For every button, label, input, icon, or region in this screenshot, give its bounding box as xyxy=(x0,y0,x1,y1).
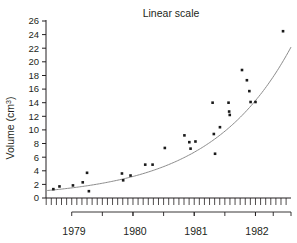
y-tick-label: 26 xyxy=(28,15,39,26)
data-point-marker xyxy=(164,147,167,150)
year-label-1981: 1981 xyxy=(184,225,208,237)
data-point-marker xyxy=(214,152,217,155)
data-point-marker xyxy=(72,184,75,187)
chart-title: Linear scale xyxy=(143,7,200,19)
data-point-marker xyxy=(81,181,84,184)
data-point-marker xyxy=(183,134,186,137)
year-label-1979: 1979 xyxy=(62,225,86,237)
data-point-marker xyxy=(254,101,257,104)
data-point-marker xyxy=(144,163,147,166)
data-point-marker xyxy=(227,101,230,104)
y-tick-label: 2 xyxy=(34,179,39,190)
data-point-marker xyxy=(241,69,244,72)
y-axis-title: Volume (cm3) xyxy=(4,97,16,160)
linear-scale-scatter-chart: Linear scale Volume (cm3) 0 2 4 6 8 10 1… xyxy=(0,0,297,243)
data-point-marker xyxy=(122,179,125,182)
data-point-marker xyxy=(213,133,216,136)
y-tick-label: 10 xyxy=(28,124,39,135)
y-tick-label: 22 xyxy=(28,43,39,54)
data-point-marker xyxy=(86,172,89,175)
data-point-marker xyxy=(151,163,154,166)
data-point-marker xyxy=(121,172,124,175)
y-tick-label: 8 xyxy=(34,138,39,149)
data-point-marker xyxy=(219,126,222,129)
data-point-marker xyxy=(58,185,61,188)
year-label-1982: 1982 xyxy=(245,225,269,237)
y-tick-label: 14 xyxy=(28,97,39,108)
data-point-marker xyxy=(52,188,55,191)
data-point-marker xyxy=(248,90,251,93)
y-tick-label: 12 xyxy=(28,111,39,122)
data-point-marker xyxy=(282,30,285,33)
y-tick-label: 18 xyxy=(28,70,39,81)
year-label-1980: 1980 xyxy=(123,225,147,237)
data-point-marker xyxy=(228,114,231,117)
y-tick-label: 0 xyxy=(34,192,39,203)
chart-container: Linear scale Volume (cm3) 0 2 4 6 8 10 1… xyxy=(0,0,297,243)
data-point-marker xyxy=(249,101,252,104)
y-tick-label: 4 xyxy=(34,165,39,176)
data-point-marker xyxy=(88,190,91,193)
data-point-marker xyxy=(189,147,192,150)
y-tick-label: 6 xyxy=(34,152,39,163)
data-point-marker xyxy=(194,140,197,143)
chart-background xyxy=(0,0,297,243)
data-point-marker xyxy=(246,79,249,82)
y-tick-label: 20 xyxy=(28,56,39,67)
data-point-marker xyxy=(129,174,132,177)
svg-text:Volume (cm3): Volume (cm3) xyxy=(4,97,16,160)
y-axis-title-tail: ) xyxy=(4,97,16,101)
data-point-marker xyxy=(211,101,214,104)
data-point-marker xyxy=(188,141,191,144)
y-axis-title-base: Volume (cm xyxy=(4,104,16,160)
y-tick-label: 24 xyxy=(28,29,39,40)
data-point-marker xyxy=(228,110,231,113)
y-tick-label: 16 xyxy=(28,83,39,94)
